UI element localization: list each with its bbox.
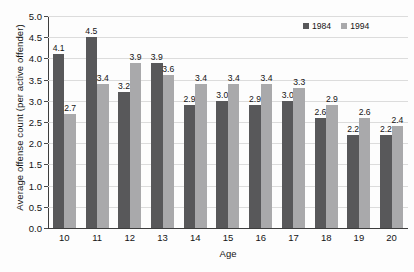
y-tick-label: 0.5 [29,201,42,212]
bar-group: 4.53.4 [81,16,114,228]
x-tick-label-15: 15 [223,232,234,243]
legend-swatch-icon-1984 [303,23,309,29]
x-tick-label-14: 14 [190,232,201,243]
bar-group: 3.03.3 [277,16,310,228]
bar-value-label: 2.9 [249,94,261,104]
y-tick-label: 5.0 [29,11,42,22]
bar-group: 2.62.9 [310,16,343,228]
bar-group: 2.22.4 [375,16,408,228]
bar-1984-age-13[interactable]: 3.9 [151,63,163,228]
bar-1994-age-11[interactable]: 3.4 [97,84,109,228]
bar-value-label: 2.6 [359,107,371,117]
legend-item-series-0: 1984 [303,21,331,31]
y-gridline [48,228,408,229]
bar-1994-age-20[interactable]: 2.4 [392,126,404,228]
bar-1994-age-12[interactable]: 3.9 [130,63,142,228]
bar-1984-age-14[interactable]: 2.9 [184,105,196,228]
x-tick-label-19: 19 [354,232,365,243]
x-tick-label-18: 18 [321,232,332,243]
bar-value-label: 3.4 [195,73,207,83]
bar-group: 2.93.4 [244,16,277,228]
chart-figure: Average offense count (per active offend… [0,0,414,272]
bar-1994-age-15[interactable]: 3.4 [228,84,240,228]
legend-label-1994: 1994 [350,21,369,31]
bar-value-label: 3.4 [97,73,109,83]
bar-group: 4.12.7 [48,16,81,228]
bar-value-label: 2.2 [380,124,392,134]
bar-1984-age-15[interactable]: 3.0 [216,101,228,228]
y-tick-label: 1.5 [29,159,42,170]
x-tick-label-12: 12 [125,232,136,243]
bar-1984-age-17[interactable]: 3.0 [282,101,294,228]
bar-1994-age-17[interactable]: 3.3 [293,88,305,228]
bar-group: 3.23.9 [113,16,146,228]
x-axis-title: Age [48,248,408,259]
bar-group: 3.93.6 [146,16,179,228]
bar-value-label: 2.9 [184,94,196,104]
bar-1984-age-11[interactable]: 4.5 [86,37,98,228]
bar-value-label: 3.4 [228,73,240,83]
x-tick-label-20: 20 [386,232,397,243]
bar-1984-age-18[interactable]: 2.6 [315,118,327,228]
y-tick-label: 1.0 [29,180,42,191]
bar-value-label: 3.4 [260,73,272,83]
plot-area: 0.00.51.01.52.02.53.03.54.04.55.04.12.74… [48,16,408,228]
bar-1984-age-19[interactable]: 2.2 [347,135,359,228]
chart-legend: 1984 1994 [303,21,369,31]
legend-label-1984: 1984 [312,21,331,31]
x-tick-label-13: 13 [157,232,168,243]
bar-value-label: 2.9 [326,94,338,104]
bar-group: 2.93.4 [179,16,212,228]
x-tick-label-16: 16 [255,232,266,243]
y-tick-label: 3.5 [29,74,42,85]
bar-1994-age-13[interactable]: 3.6 [163,75,175,228]
y-tick-label: 2.5 [29,117,42,128]
bar-value-label: 2.2 [347,124,359,134]
bar-value-label: 3.0 [216,90,228,100]
bar-1994-age-19[interactable]: 2.6 [359,118,371,228]
bar-1994-age-18[interactable]: 2.9 [326,105,338,228]
bar-value-label: 2.7 [64,103,76,113]
bar-1994-age-16[interactable]: 3.4 [261,84,273,228]
legend-swatch-icon-1994 [341,23,347,29]
bar-1984-age-12[interactable]: 3.2 [118,92,130,228]
bar-value-label: 4.1 [53,43,65,53]
bar-group: 2.22.6 [343,16,376,228]
y-tick-label: 4.0 [29,53,42,64]
bar-value-label: 3.0 [282,90,294,100]
bar-group: 3.03.4 [212,16,245,228]
x-tick-label-10: 10 [59,232,70,243]
bar-1984-age-10[interactable]: 4.1 [53,54,65,228]
bar-value-label: 2.4 [391,115,403,125]
bar-1994-age-10[interactable]: 2.7 [64,114,76,228]
bar-value-label: 3.9 [151,52,163,62]
legend-item-series-1: 1994 [341,21,369,31]
y-tick-label: 3.0 [29,95,42,106]
bar-value-label: 3.6 [162,64,174,74]
bar-1984-age-16[interactable]: 2.9 [249,105,261,228]
y-tick-mark [44,228,48,229]
y-tick-label: 4.5 [29,32,42,43]
bar-value-label: 3.2 [118,81,130,91]
bar-value-label: 4.5 [85,26,97,36]
y-axis-title: Average offense count (per active offend… [14,3,25,233]
bar-1984-age-20[interactable]: 2.2 [380,135,392,228]
bar-value-label: 3.9 [130,52,142,62]
bar-value-label: 2.6 [314,107,326,117]
x-tick-label-17: 17 [288,232,299,243]
bar-value-label: 3.3 [293,77,305,87]
y-tick-label: 2.0 [29,138,42,149]
bar-1994-age-14[interactable]: 3.4 [195,84,207,228]
y-tick-label: 0.0 [29,223,42,234]
x-tick-label-11: 11 [92,232,102,243]
